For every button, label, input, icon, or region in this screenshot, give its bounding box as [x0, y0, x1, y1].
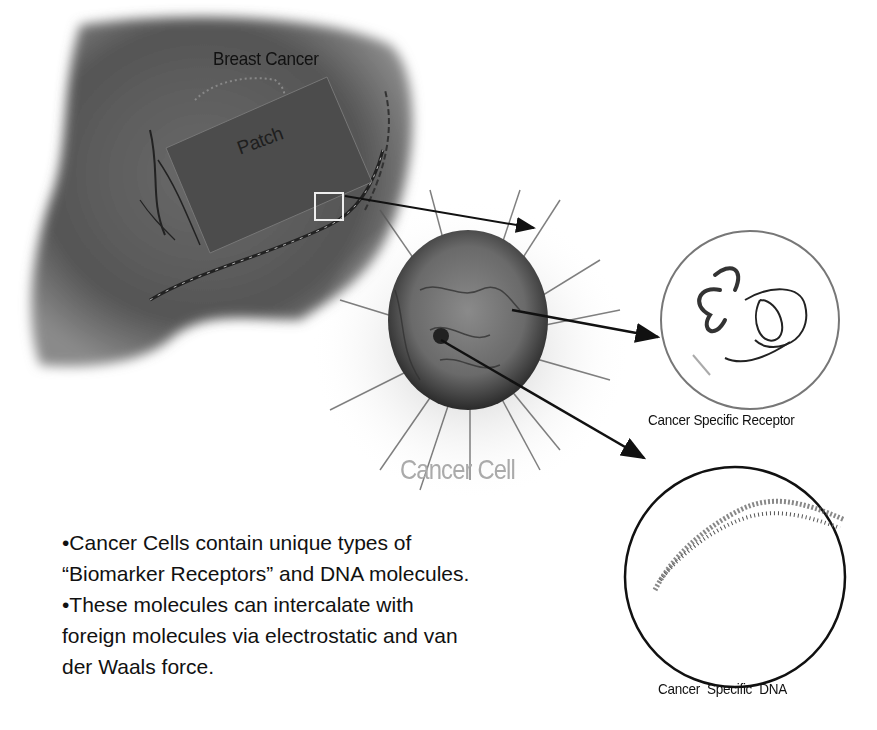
diagram-canvas: Breast Cancer Patch Cancer Cell Cancer S… [0, 0, 877, 730]
receptor-label: Cancer Specific Receptor [648, 411, 795, 428]
bullet-line: foreign molecules via electrostatic and … [62, 620, 522, 651]
bullet-line: •These molecules can intercalate with [62, 589, 522, 620]
receptor-circle [661, 231, 839, 409]
breast-cancer-label: Breast Cancer [213, 48, 319, 70]
bullet-line: der Waals force. [62, 651, 522, 682]
dna-label: Cancer Specific DNA [658, 680, 787, 697]
bullet-line: “Biomarker Receptors” and DNA molecules. [62, 558, 522, 589]
cancer-cell-label: Cancer Cell [400, 454, 515, 486]
bullet-line: •Cancer Cells contain unique types of [62, 527, 522, 558]
dna-circle [625, 467, 845, 687]
description-text: •Cancer Cells contain unique types of “B… [62, 527, 522, 682]
